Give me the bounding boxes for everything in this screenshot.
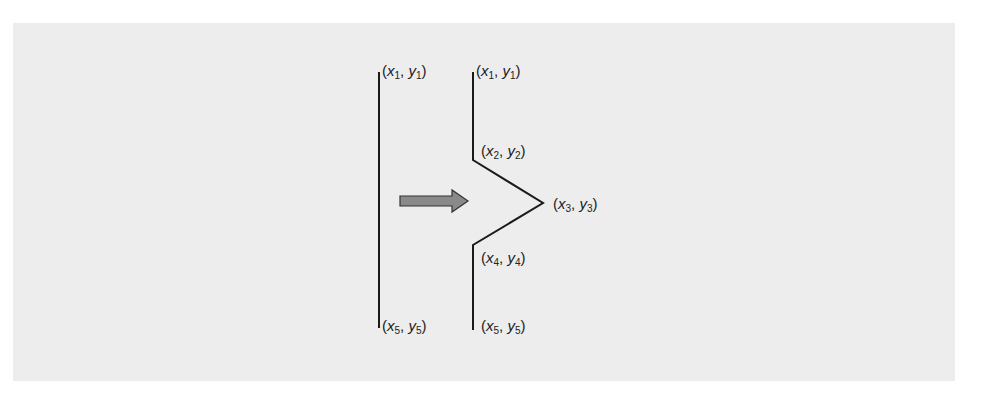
subdivided-line [473,72,543,330]
right-label-p2: (x2, y2) [481,143,525,161]
diagram-canvas [0,0,984,400]
left-label-p5: (x5, y5) [382,318,426,336]
left-label-p1: (x1, y1) [382,63,426,81]
right-arrow-icon [400,190,468,212]
right-label-p3: (x3, y3) [553,196,597,214]
right-label-p1: (x1, y1) [476,63,520,81]
right-label-p4: (x4, y4) [481,250,525,268]
right-label-p5: (x5, y5) [481,318,525,336]
